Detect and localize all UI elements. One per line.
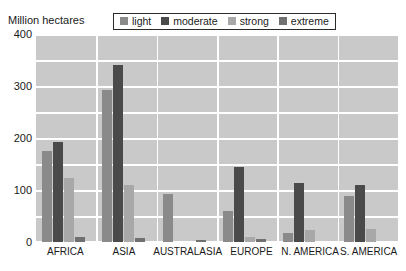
bar-moderate[interactable] <box>53 142 63 242</box>
plot-area <box>36 34 398 242</box>
bar-moderate[interactable] <box>234 167 244 242</box>
x-tick-label: EUROPE <box>222 246 281 257</box>
x-tick-label: S. AMERICA <box>339 246 398 257</box>
bar-group-n-america <box>277 34 337 242</box>
bar-light[interactable] <box>344 196 354 242</box>
y-tick-label: 0 <box>26 237 32 248</box>
bar-group-africa <box>36 34 96 242</box>
bar-light[interactable] <box>163 194 173 242</box>
bar-extreme[interactable] <box>196 240 206 242</box>
legend-item-label: extreme <box>291 15 329 27</box>
legend-item-extreme[interactable]: extreme <box>279 15 329 27</box>
bar-light[interactable] <box>223 211 233 242</box>
bar-extreme[interactable] <box>256 239 266 242</box>
chart-legend: lightmoderatestrongextreme <box>113 13 336 30</box>
legend-swatch-icon <box>228 17 236 25</box>
x-axis-tick-labels: AFRICAASIAAUSTRALASIAEUROPEN. AMERICAS. … <box>36 246 398 257</box>
legend-item-strong[interactable]: strong <box>228 15 269 27</box>
bar-strong[interactable] <box>64 178 74 242</box>
y-axis-title: Million hectares <box>8 14 84 26</box>
x-tick-label: N. AMERICA <box>281 246 340 257</box>
bar-light[interactable] <box>283 233 293 242</box>
chart-figure: Million hectares lightmoderatestrongextr… <box>0 0 406 271</box>
bar-group-s-america <box>338 34 398 242</box>
y-tick-label: 300 <box>14 81 32 92</box>
bar-light[interactable] <box>102 90 112 242</box>
legend-item-label: moderate <box>173 15 217 27</box>
bar-group-asia <box>96 34 156 242</box>
x-tick-label: AUSTRALASIA <box>153 246 222 257</box>
legend-item-label: strong <box>240 15 269 27</box>
bar-strong[interactable] <box>366 229 376 242</box>
legend-item-light[interactable]: light <box>120 15 151 27</box>
bar-groups <box>36 34 398 242</box>
legend-swatch-icon <box>120 17 128 25</box>
bar-strong[interactable] <box>305 230 315 242</box>
bar-extreme[interactable] <box>135 238 145 242</box>
legend-swatch-icon <box>161 17 169 25</box>
y-tick-label: 200 <box>14 133 32 144</box>
bar-moderate[interactable] <box>294 183 304 242</box>
bar-light[interactable] <box>42 151 52 242</box>
legend-item-moderate[interactable]: moderate <box>161 15 217 27</box>
y-axis-tick-labels: 0100200300400 <box>0 34 32 242</box>
bar-group-australasia <box>157 34 217 242</box>
y-tick-label: 400 <box>14 29 32 40</box>
x-tick-label: ASIA <box>95 246 154 257</box>
bar-strong[interactable] <box>124 185 134 242</box>
legend-swatch-icon <box>279 17 287 25</box>
bar-strong[interactable] <box>245 237 255 242</box>
bar-extreme[interactable] <box>75 237 85 242</box>
bar-moderate[interactable] <box>355 185 365 242</box>
x-tick-label: AFRICA <box>36 246 95 257</box>
legend-item-label: light <box>132 15 151 27</box>
bar-group-europe <box>217 34 277 242</box>
bar-moderate[interactable] <box>113 65 123 242</box>
y-tick-label: 100 <box>14 185 32 196</box>
